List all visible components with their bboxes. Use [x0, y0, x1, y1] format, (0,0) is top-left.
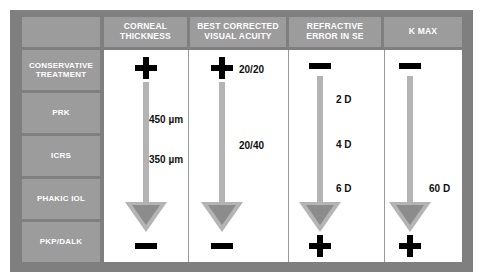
slider-k-max[interactable]: 60 D	[385, 50, 462, 262]
slider-arrow-inner	[306, 205, 334, 225]
sidebar-item-icrs[interactable]: ICRS	[22, 136, 100, 176]
slider-panel: 450 µm 350 µm 20/20 20/40	[104, 50, 462, 262]
slider-track[interactable]	[143, 82, 149, 207]
slider-arrow-inner	[396, 205, 424, 225]
column-header-refractive-error-in-se[interactable]: REFRACTIVE ERROR IN SE	[289, 17, 381, 47]
slider-tick-label: 350 µm	[149, 154, 183, 165]
slider-refractive-error-in-se[interactable]: 2 D 4 D 6 D	[289, 50, 384, 262]
slider-track[interactable]	[407, 76, 413, 207]
slider-track[interactable]	[317, 76, 323, 207]
slider-bottom-glyph-minus	[135, 243, 157, 249]
slider-tick-label: 60 D	[429, 183, 450, 194]
keratoconus-decision-chart: CONSERVATIVE TREATMENT PRK ICRS PHAKIC I…	[0, 0, 484, 280]
sidebar-item-phakic-iol[interactable]: PHAKIC IOL	[22, 179, 100, 219]
corner-cell	[22, 17, 100, 47]
slider-corneal-thickness[interactable]: 450 µm 350 µm	[104, 50, 188, 262]
slider-track[interactable]	[219, 82, 225, 207]
slider-arrow-inner	[208, 205, 236, 225]
slider-tick-label: 4 D	[336, 139, 352, 150]
slider-arrow-inner	[132, 205, 160, 225]
slider-tick-label: 450 µm	[149, 114, 183, 125]
column-header-best-corrected-visual-acuity[interactable]: BEST CORRECTED VISUAL ACUITY	[190, 17, 286, 47]
slider-tick-label: 20/20	[239, 64, 264, 75]
slider-tick-label: 2 D	[336, 94, 352, 105]
sidebar-item-prk[interactable]: PRK	[22, 93, 100, 133]
sidebar-item-pkp-dalk[interactable]: PKP/DALK	[22, 222, 100, 262]
sidebar-item-conservative-treatment[interactable]: CONSERVATIVE TREATMENT	[22, 50, 100, 90]
slider-tick-label: 20/40	[239, 140, 264, 151]
slider-top-glyph-minus	[399, 63, 421, 69]
slider-top-glyph-minus	[309, 63, 331, 69]
slider-tick-label: 6 D	[336, 183, 352, 194]
slider-bottom-glyph-minus	[211, 243, 233, 249]
column-header-corneal-thickness[interactable]: CORNEAL THICKNESS	[104, 17, 187, 47]
slider-best-corrected-visual-acuity[interactable]: 20/20 20/40	[189, 50, 288, 262]
column-header-k-max[interactable]: K MAX	[384, 17, 462, 47]
